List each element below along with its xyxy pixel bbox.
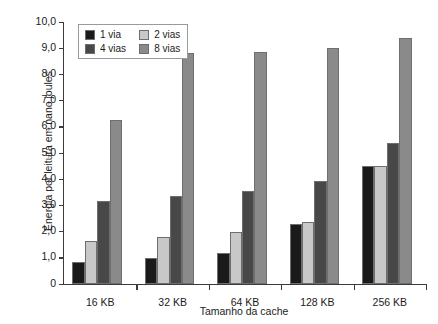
bar [374, 166, 386, 284]
legend-entry: 4 vias [85, 43, 126, 54]
y-tick-label: 0 [50, 277, 56, 289]
plot-area: 01,02,03,04,05,06,07,08,09,010,0 16 KB32… [63, 22, 426, 285]
bar-group [64, 22, 136, 284]
legend-label: 8 vias [154, 43, 180, 54]
bar [362, 166, 374, 284]
bar [157, 237, 169, 284]
bar-group [136, 22, 208, 284]
x-tick-mark [281, 284, 282, 290]
y-tick-label: 3,0 [41, 198, 56, 210]
legend-swatch [139, 44, 149, 54]
bar [254, 52, 266, 284]
bar [85, 241, 97, 284]
bar [72, 262, 84, 284]
x-tick-mark [354, 284, 355, 290]
bar [242, 191, 254, 284]
bar [387, 143, 399, 284]
y-tick-label: 7,0 [41, 93, 56, 105]
x-axis-title: Tamanho da cache [63, 305, 425, 317]
y-tick-label: 8,0 [41, 67, 56, 79]
legend-entry: 8 vias [139, 43, 180, 54]
bar [145, 258, 157, 284]
y-tick-label: 2,0 [41, 224, 56, 236]
legend-label: 1 via [100, 29, 121, 40]
bar-chart-figure: Energia por leitura em nano joules 01,02… [0, 0, 438, 324]
bar [97, 201, 109, 284]
bar [230, 232, 242, 284]
legend-label: 2 vias [154, 29, 180, 40]
bar-group [354, 22, 426, 284]
legend-entry: 2 vias [139, 29, 180, 40]
x-tick-mark [136, 284, 137, 290]
legend-swatch [85, 30, 95, 40]
y-tick-label: 4,0 [41, 172, 56, 184]
legend-label: 4 vias [100, 43, 126, 54]
x-tick-mark [426, 284, 427, 290]
x-tick-mark [209, 284, 210, 290]
chart-legend: 1 via2 vias4 vias8 vias [78, 24, 188, 59]
y-tick-label: 5,0 [41, 146, 56, 158]
y-tick-label: 10,0 [36, 15, 56, 27]
bar-group [281, 22, 353, 284]
bar [110, 120, 122, 284]
legend-swatch [85, 44, 95, 54]
bar [182, 53, 194, 284]
y-tick-label: 1,0 [41, 250, 56, 262]
bar [399, 38, 411, 284]
y-tick-label: 9,0 [41, 41, 56, 53]
legend-swatch [139, 30, 149, 40]
legend-entry: 1 via [85, 29, 126, 40]
bar [314, 181, 326, 284]
bar [327, 48, 339, 284]
bar-group [209, 22, 281, 284]
bar [217, 253, 229, 284]
y-tick-label: 6,0 [41, 119, 56, 131]
bar [170, 196, 182, 284]
bar [302, 222, 314, 284]
bar [290, 224, 302, 284]
